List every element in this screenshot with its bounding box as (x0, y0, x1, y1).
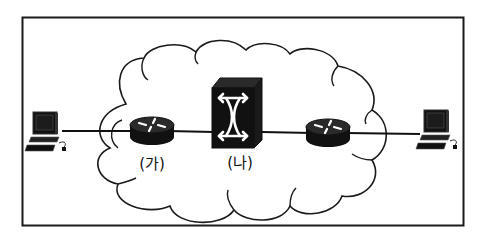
link-switch-b-router-c (262, 132, 312, 133)
link-router-c-pc-right (346, 133, 420, 134)
link-router-a-switch-b (168, 131, 214, 132)
router-icon (130, 117, 174, 145)
router-icon (306, 119, 350, 147)
switch-b-label: (나) (227, 151, 253, 172)
network-diagram (0, 0, 480, 236)
router-a-label: (가) (139, 152, 165, 173)
switch-icon (212, 78, 262, 148)
computer-icon (416, 110, 457, 149)
computer-icon (25, 112, 66, 151)
